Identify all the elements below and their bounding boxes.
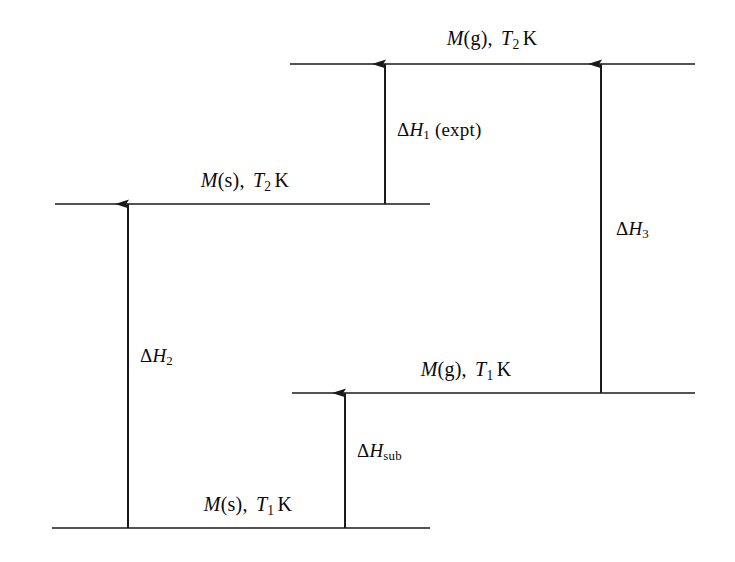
state-label-ms-t1: M(s), T1K <box>204 494 292 514</box>
state-label-ms-t2: M(s), T2K <box>201 170 289 190</box>
arrow-label-delta-h1: ΔH1 (expt) <box>397 120 482 139</box>
state-label-mg-t1: M(g), T1K <box>421 359 512 379</box>
cycle-svg-canvas <box>0 0 735 562</box>
state-label-mg-t2: M(g), T2K <box>447 28 538 48</box>
arrow-label-delta-h3: ΔH3 <box>616 219 649 238</box>
arrow-label-delta-hsub: ΔHsub <box>357 441 402 460</box>
thermodynamic-cycle-diagram: M(g), T2KM(s), T2KM(g), T1KM(s), T1KΔH2Δ… <box>0 0 735 562</box>
arrow-label-delta-h2: ΔH2 <box>140 346 173 365</box>
